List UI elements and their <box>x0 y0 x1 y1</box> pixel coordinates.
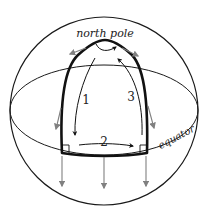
parallel-transport-diagram: north pole 1 3 2 equator <box>0 0 208 217</box>
pole-turn-arrow <box>96 44 116 50</box>
leg-2-label: 2 <box>100 135 108 149</box>
leg-1-label: 1 <box>82 93 90 107</box>
leg-3-label: 3 <box>127 90 135 104</box>
vector-right-mid <box>148 106 154 128</box>
north-pole-label: north pole <box>76 27 134 40</box>
